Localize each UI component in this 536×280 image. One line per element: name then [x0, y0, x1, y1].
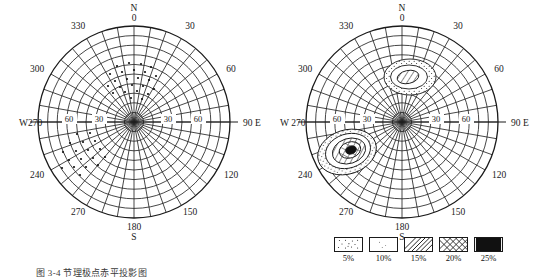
- radial-tick-w60: 60: [65, 114, 74, 124]
- radial-tick-e30: 30: [164, 114, 173, 124]
- label-west-270: W270: [19, 118, 42, 128]
- density-legend: 5% 10% 15%: [334, 237, 503, 263]
- legend-item-25: 25%: [474, 237, 503, 263]
- panel-left-stereonet: N 0 330 30 300 60 W270 90 E 240 120 270 …: [0, 0, 268, 280]
- label-south: S: [131, 232, 136, 242]
- legend-label-20: 20%: [446, 253, 462, 263]
- label-west-270: W 270: [280, 118, 306, 128]
- radial-tick-e60: 60: [462, 114, 471, 124]
- label-azimuth-240: 240: [298, 170, 313, 180]
- radial-tick-e60: 60: [194, 114, 203, 124]
- label-east-90: 90 E: [511, 118, 529, 128]
- radial-tick-e30: 30: [432, 114, 441, 124]
- label-azimuth-120: 120: [224, 170, 239, 180]
- label-azimuth-150: 150: [451, 207, 466, 217]
- label-azimuth-330: 330: [339, 21, 354, 31]
- label-azimuth-240: 240: [30, 170, 45, 180]
- label-azimuth-30: 30: [185, 21, 195, 31]
- label-azimuth-0: 0: [400, 13, 405, 23]
- label-azimuth-60: 60: [226, 64, 236, 74]
- label-azimuth-300: 300: [298, 64, 313, 74]
- legend-label-5: 5%: [343, 253, 354, 263]
- legend-item-10: 10%: [369, 237, 398, 263]
- label-azimuth-210: 270: [339, 207, 354, 217]
- density-cluster-southwest: [312, 122, 383, 182]
- legend-item-20: 20%: [439, 237, 468, 263]
- label-azimuth-60: 60: [494, 64, 504, 74]
- left-stereonet-plot: N 0 330 30 300 60 W270 90 E 240 120 270 …: [0, 0, 268, 280]
- radial-tick-w60: 60: [333, 114, 342, 124]
- label-azimuth-210: 270: [71, 207, 86, 217]
- legend-label-15: 15%: [411, 253, 427, 263]
- label-azimuth-30: 30: [453, 21, 463, 31]
- legend-item-15: 15%: [404, 237, 433, 263]
- radial-tick-w30: 30: [95, 114, 104, 124]
- label-azimuth-0: 0: [132, 13, 137, 23]
- label-azimuth-150: 150: [183, 207, 198, 217]
- label-azimuth-300: 300: [30, 64, 45, 74]
- legend-label-10: 10%: [376, 253, 392, 263]
- label-azimuth-180: 180: [395, 222, 410, 232]
- caption-left: 图 3-4 节理极点赤平投影图: [36, 266, 147, 279]
- legend-swatch-cross-hatch: [439, 237, 468, 252]
- label-north: N: [399, 3, 406, 13]
- legend-swatch-very-sparse-dots: [369, 237, 398, 252]
- density-cluster-north: [384, 59, 436, 95]
- legend-label-25: 25%: [481, 253, 497, 263]
- label-north: N: [131, 3, 138, 13]
- label-azimuth-330: 330: [71, 21, 86, 31]
- label-east-90: 90 E: [243, 118, 261, 128]
- legend-item-5: 5%: [334, 237, 363, 263]
- label-azimuth-120: 120: [492, 170, 507, 180]
- label-azimuth-180: 180: [127, 222, 142, 232]
- legend-swatch-sparse-dots: [334, 237, 363, 252]
- legend-swatch-solid-black: [474, 237, 503, 252]
- radial-tick-w30: 30: [363, 114, 372, 124]
- legend-swatch-diagonal-hatch: [404, 237, 433, 252]
